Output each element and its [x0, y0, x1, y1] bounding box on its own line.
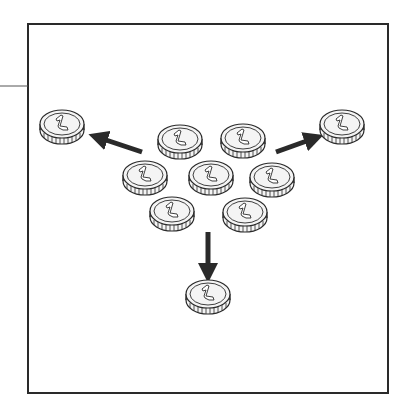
- coin-cluster-top-right-icon: [221, 124, 265, 158]
- coin-outer-left-icon: [40, 110, 84, 144]
- coin-outer-right-icon: [320, 110, 364, 144]
- arrow-left-icon: [97, 137, 142, 152]
- coin-cluster-bottom-left-icon: [150, 197, 194, 231]
- arrow-right-icon: [276, 138, 315, 152]
- diagram-frame: [28, 24, 388, 393]
- coin-cluster-mid-left-icon: [123, 161, 167, 195]
- coin-cluster-bottom-right-icon: [223, 198, 267, 232]
- coins-group: [40, 110, 364, 314]
- coin-diagram: [0, 0, 405, 416]
- coin-cluster-mid-right-icon: [250, 163, 294, 197]
- coin-cluster-top-left-icon: [158, 125, 202, 159]
- coin-cluster-mid-center-icon: [189, 161, 233, 195]
- arrows-group: [97, 137, 315, 274]
- coin-outer-bottom-icon: [186, 280, 230, 314]
